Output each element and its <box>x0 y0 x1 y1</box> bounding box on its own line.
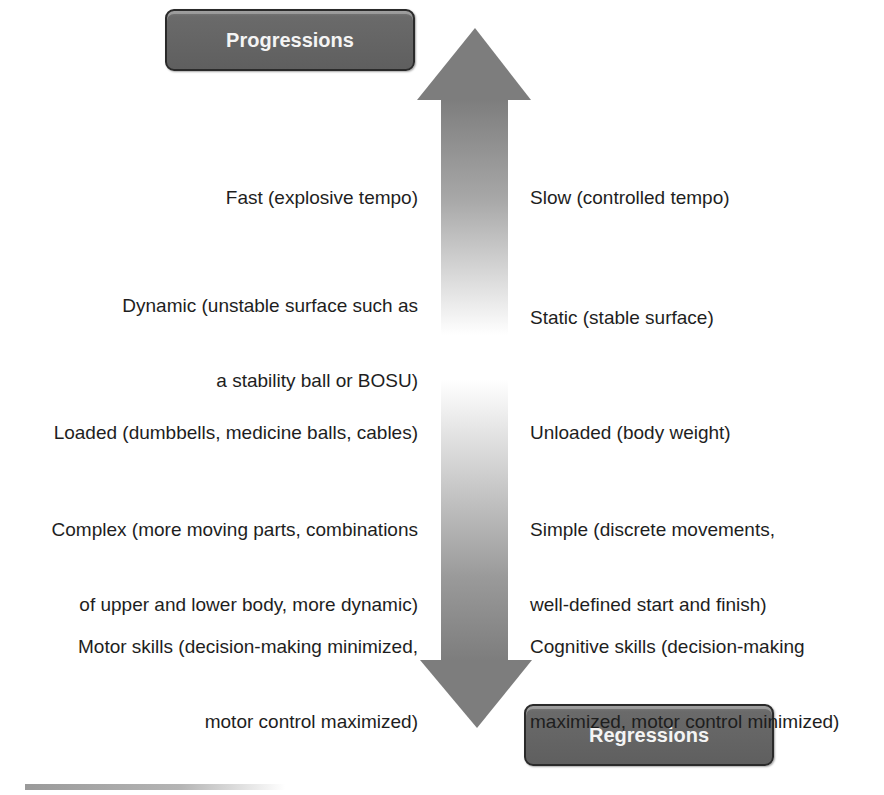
progressions-label: Progressions <box>165 9 415 71</box>
regression-item-tempo: Slow (controlled tempo) <box>530 135 730 260</box>
progression-item-skills: Motor skills (decision-making minimized,… <box>78 584 418 784</box>
item-line: maximized, motor control minimized) <box>530 709 839 734</box>
item-line: Static (stable surface) <box>530 305 714 330</box>
arrow-up-head-icon <box>417 28 531 100</box>
item-line: Dynamic (unstable surface such as <box>122 293 418 318</box>
item-line: Simple (discrete movements, <box>530 517 775 542</box>
item-line: Motor skills (decision-making minimized, <box>78 634 418 659</box>
regression-item-skills: Cognitive skills (decision-making maximi… <box>530 584 839 784</box>
item-line: Loaded (dumbbells, medicine balls, cable… <box>54 420 418 445</box>
regression-item-surface: Static (stable surface) <box>530 255 714 380</box>
decorative-footer-bar <box>25 784 285 790</box>
item-line: Slow (controlled tempo) <box>530 185 730 210</box>
item-line: Unloaded (body weight) <box>530 420 731 445</box>
arrow-shaft <box>441 99 508 661</box>
arrow-down-head-icon <box>420 660 532 728</box>
progression-regression-diagram: Progressions Regressions Fast (explosive… <box>0 0 884 795</box>
progression-item-tempo: Fast (explosive tempo) <box>226 135 418 260</box>
item-line: motor control maximized) <box>78 709 418 734</box>
item-line: Fast (explosive tempo) <box>226 185 418 210</box>
item-line: Complex (more moving parts, combinations <box>52 517 418 542</box>
item-line: Cognitive skills (decision-making <box>530 634 839 659</box>
